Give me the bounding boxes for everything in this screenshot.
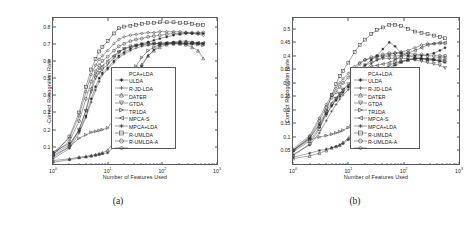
legend-item-gtda: GTDA [114,100,172,108]
y-tick-label: 0.05 [280,147,290,153]
x-minor-tick [195,163,196,164]
square-icon [353,123,368,131]
y-tick-label: 0.5 [43,75,50,81]
y-tick-label: 0.45 [280,39,290,45]
caption-a: (a) [0,196,236,206]
y-tick-mark [215,95,218,96]
x-minor-tick [102,163,103,164]
panel-a: Correct Recognition Rate Number of Featu… [0,0,236,229]
x-minor-tick [99,163,100,164]
x-tick-label: 103 [455,167,463,174]
legend-label: MPCA+LDA [368,124,397,130]
x-minor-tick [345,163,346,164]
y-tick-mark [53,26,56,27]
legend-label: R-JD-LDA [129,86,153,92]
y-tick-label: 0.3 [283,80,290,86]
x-minor-tick [159,163,160,164]
y-tick-mark [457,123,460,124]
x-minor-tick [374,163,375,164]
x-tick-mark [459,162,460,165]
x-minor-tick [453,163,454,164]
legend-item-r-umlda: R-UMLDA [114,131,172,139]
y-tick-label: 0.1 [283,134,290,140]
legend-item-r-jd-lda: R-JD-LDA [114,85,172,93]
legend-item-r-umlda-a: R-UMLDA-A [114,138,172,146]
x-tick-mark [107,162,108,165]
legend-item-mpca-lda: MPCA+LDA [114,123,172,131]
triangle-left-icon [114,108,129,116]
x-minor-tick [208,163,209,164]
y-tick-mark [53,95,56,96]
x-minor-tick [364,163,365,164]
x-minor-tick [339,163,340,164]
x-tick-mark [293,18,294,21]
legend-label: MPCA+LDA [129,124,158,130]
x-minor-tick [150,163,151,164]
legend-a: PCA+LDAULDAR-JD-LDADATERGTDATR1DAMPCA-SM… [111,67,176,149]
y-tick-label: 0.35 [280,66,290,72]
legend-item-gtda: GTDA [353,100,416,108]
x-tick-mark [217,18,218,21]
y-tick-label: 0.5 [283,26,290,32]
y-tick-mark [53,43,56,44]
triangle-left-icon [353,108,368,116]
legend-label: R-UMLDA-A [368,139,397,145]
y-tick-label: 0.3 [43,109,50,115]
triangle-up-icon [114,85,129,93]
x-minor-tick [430,163,431,164]
x-minor-tick [446,163,447,164]
legend-item-dater: DATER [353,93,416,101]
x-tick-mark [293,162,294,165]
legend-label: ULDA [368,78,382,84]
legend-label: DATER [368,94,385,100]
legend-label: PCA+LDA [129,71,153,77]
y-tick-mark [293,136,296,137]
x-minor-tick [450,163,451,164]
y-tick-mark [457,69,460,70]
y-tick-mark [293,109,296,110]
star-open-icon [353,116,368,124]
x-tick-mark [107,18,108,21]
y-tick-mark [53,129,56,130]
x-axis-label-b: Number of Features Used [344,174,408,180]
legend-item-tr1da: TR1DA [353,108,416,116]
diamond-icon [353,138,368,146]
x-minor-tick [188,163,189,164]
x-tick-label: 100 [289,167,297,174]
x-minor-tick [91,163,92,164]
x-minor-tick [436,163,437,164]
x-tick-mark [403,18,404,21]
diamond-icon [114,138,129,146]
y-tick-mark [457,109,460,110]
legend-label: GTDA [368,101,383,107]
legend-label: MPCA-S [129,116,149,122]
x-tick-mark [403,162,404,165]
y-tick-mark [215,112,218,113]
x-minor-tick [456,163,457,164]
triangle-right-icon [353,100,368,108]
legend-item-pca-lda: PCA+LDA [114,70,172,78]
y-tick-label: 0.2 [43,127,50,133]
y-tick-mark [215,78,218,79]
x-minor-tick [319,163,320,164]
x-minor-tick [153,163,154,164]
star-open-icon [114,116,129,124]
x-minor-tick [69,163,70,164]
x-minor-tick [145,163,146,164]
x-tick-label: 102 [400,167,408,174]
y-tick-mark [457,55,460,56]
y-tick-mark [457,150,460,151]
caption-b: (b) [237,196,473,206]
y-tick-mark [293,123,296,124]
x-tick-mark [53,18,54,21]
x-tick-mark [348,18,349,21]
x-tick-label: 101 [344,167,352,174]
star-filled-icon [353,70,368,78]
y-tick-label: 0.25 [280,93,290,99]
circle-icon [114,131,129,139]
x-minor-tick [204,163,205,164]
legend-label: PCA+LDA [368,71,392,77]
y-tick-mark [53,78,56,79]
legend-label: TR1DA [368,109,385,115]
y-tick-label: 0.4 [283,53,290,59]
